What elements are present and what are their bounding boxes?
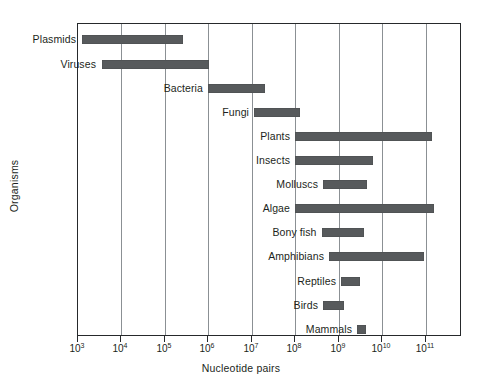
- row-label-plants: Plants: [260, 130, 290, 141]
- bar-plants: [295, 132, 432, 141]
- xtick-mark-1e6: [207, 336, 208, 342]
- bar-plasmids: [82, 35, 183, 44]
- xtick-exp-1e10: 10: [383, 342, 391, 349]
- bar-viruses: [102, 60, 209, 69]
- xtick-mark-1e4: [120, 336, 121, 342]
- bar-bacteria: [208, 84, 265, 93]
- x-axis-title: Nucleotide pairs: [0, 362, 482, 374]
- xtick-label-1e11: 1011: [416, 343, 434, 354]
- xtick-label-1e5: 105: [156, 343, 171, 354]
- bar-algae: [295, 204, 434, 213]
- bar-birds: [323, 301, 344, 310]
- xtick-mark-1e5: [164, 336, 165, 342]
- xtick-exp-1e6: 6: [211, 342, 215, 349]
- y-axis-title: Organisms: [8, 160, 20, 213]
- row-label-molluscs: Molluscs: [276, 178, 318, 189]
- bar-amphibians: [329, 252, 424, 261]
- xtick-base-1e6: 10: [199, 343, 210, 354]
- bar-fungi: [254, 108, 300, 117]
- row-label-algae: Algae: [263, 202, 290, 213]
- gridline-1e7: [252, 24, 253, 335]
- bar-bony-fish: [322, 228, 365, 237]
- xtick-mark-1e9: [338, 336, 339, 342]
- row-label-bacteria: Bacteria: [164, 82, 203, 93]
- xtick-exp-1e7: 7: [255, 342, 259, 349]
- row-label-mammals: Mammals: [306, 323, 352, 334]
- bar-insects: [295, 156, 373, 165]
- xtick-base-1e3: 10: [69, 343, 80, 354]
- row-label-bony-fish: Bony fish: [272, 226, 316, 237]
- bar-mammals: [357, 325, 366, 334]
- gridline-1e6: [208, 24, 209, 335]
- xtick-mark-1e8: [294, 336, 295, 342]
- plot-area: [77, 23, 461, 336]
- row-label-insects: Insects: [256, 154, 290, 165]
- bar-reptiles: [341, 277, 360, 286]
- gridline-1e10: [382, 24, 383, 335]
- xtick-base-1e4: 10: [112, 343, 123, 354]
- xtick-exp-1e8: 8: [298, 342, 302, 349]
- xtick-mark-1e3: [77, 336, 78, 342]
- xtick-base-1e8: 10: [286, 343, 297, 354]
- xtick-label-1e4: 104: [112, 343, 127, 354]
- xtick-label-1e9: 109: [330, 343, 345, 354]
- xtick-mark-1e7: [251, 336, 252, 342]
- xtick-exp-1e3: 3: [81, 342, 85, 349]
- row-label-plasmids: Plasmids: [33, 33, 76, 44]
- xtick-exp-1e5: 5: [168, 342, 172, 349]
- bar-molluscs: [323, 180, 367, 189]
- row-label-viruses: Viruses: [60, 58, 96, 69]
- gridline-1e11: [426, 24, 427, 335]
- xtick-label-1e6: 106: [199, 343, 214, 354]
- gridline-1e4: [121, 24, 122, 335]
- row-label-birds: Birds: [294, 299, 318, 310]
- xtick-exp-1e11: 11: [427, 342, 434, 349]
- xtick-base-1e10: 10: [372, 343, 383, 354]
- xtick-base-1e9: 10: [330, 343, 341, 354]
- xtick-exp-1e9: 9: [342, 342, 346, 349]
- xtick-label-1e3: 103: [69, 343, 84, 354]
- xtick-base-1e7: 10: [243, 343, 254, 354]
- xtick-label-1e8: 108: [286, 343, 301, 354]
- chart-figure: Plasmids Viruses Bacteria Fungi Plants I…: [0, 0, 482, 389]
- xtick-label-1e10: 1010: [372, 343, 391, 354]
- xtick-base-1e11: 10: [416, 343, 427, 354]
- xtick-base-1e5: 10: [156, 343, 167, 354]
- row-label-reptiles: Reptiles: [297, 275, 336, 286]
- xtick-label-1e7: 107: [243, 343, 258, 354]
- row-label-fungi: Fungi: [222, 106, 249, 117]
- gridline-1e5: [165, 24, 166, 335]
- xtick-exp-1e4: 4: [124, 342, 128, 349]
- row-label-amphibians: Amphibians: [268, 250, 324, 261]
